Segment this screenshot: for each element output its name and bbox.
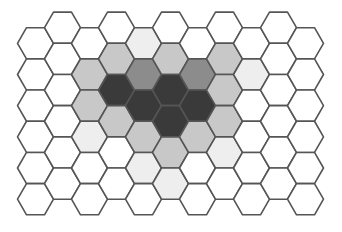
hex-cell-white [288, 184, 324, 215]
hex-cell-white [288, 28, 324, 59]
hex-cell-white [288, 59, 324, 90]
hex-grid-diagram [0, 0, 342, 232]
hex-cell-white [288, 121, 324, 152]
hex-cell-white [288, 152, 324, 183]
hex-grid [0, 0, 342, 232]
hex-cell-white [288, 90, 324, 121]
